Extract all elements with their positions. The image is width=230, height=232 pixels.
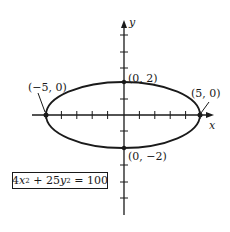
x-axis-arrow-icon bbox=[206, 112, 214, 118]
point-top-covertex bbox=[122, 80, 126, 84]
y-axis-label: y bbox=[129, 17, 135, 28]
point-left-vertex bbox=[44, 113, 49, 118]
point-right-vertex bbox=[198, 113, 203, 118]
equation-box: 4x2 + 25y2 = 100 bbox=[12, 172, 108, 189]
label-bottom-covertex: (0, −2) bbox=[128, 151, 167, 162]
y-axis-arrow-icon bbox=[121, 20, 127, 28]
label-right-vertex: (5, 0) bbox=[191, 88, 221, 99]
leader-right bbox=[201, 102, 209, 113]
ellipse-graph bbox=[0, 0, 230, 232]
label-left-vertex: (−5, 0) bbox=[28, 82, 67, 93]
point-bottom-covertex bbox=[122, 146, 126, 150]
x-axis-label: x bbox=[209, 120, 215, 131]
leader-left bbox=[38, 93, 45, 112]
label-top-covertex: (0, 2) bbox=[128, 73, 158, 84]
